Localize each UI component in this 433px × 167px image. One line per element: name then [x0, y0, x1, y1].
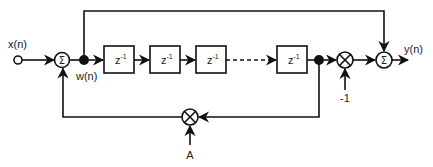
multiplier-output — [337, 52, 353, 68]
delay-exponent: -1 — [213, 53, 219, 60]
delay-exponent: -1 — [121, 53, 127, 60]
input-label: x(n) — [8, 38, 27, 50]
output-label: y(n) — [404, 43, 423, 55]
multiplier-feedback — [182, 109, 198, 125]
delay-exponent: -1 — [167, 53, 173, 60]
delay-block-n: z-1 — [277, 46, 307, 73]
sum-symbol: Σ — [59, 55, 65, 66]
delay-block-3: z-1 — [196, 46, 226, 73]
gain-label-a: A — [186, 149, 194, 161]
delay-exponent: -1 — [294, 53, 300, 60]
w-label: w(n) — [75, 70, 97, 82]
delay-block-1: z-1 — [104, 46, 134, 73]
input-source-icon — [14, 56, 22, 64]
delay-block-2: z-1 — [150, 46, 180, 73]
sum-junction-input: Σ — [55, 53, 70, 68]
sum-junction-output: Σ — [376, 52, 392, 68]
sum-symbol: Σ — [381, 55, 387, 66]
gain-label-minus1: -1 — [340, 92, 350, 104]
comb-filter-diagram: x(n) Σ w(n) z-1 z-1 z-1 z-1 — [0, 0, 433, 167]
